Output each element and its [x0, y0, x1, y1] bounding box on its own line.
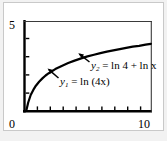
annotation-label-y2: y2 = ln 4 + ln x: [91, 60, 156, 71]
annotation-y2-equals: =: [99, 59, 111, 71]
figure-container: 5 0 10 y2 = ln 4 + ln x y1 = ln (4x): [0, 0, 167, 141]
annotation-y1-expression: ln (4x): [80, 75, 110, 87]
x-axis-min-label: 0: [9, 118, 15, 130]
annotation-y1-subscript: 1: [65, 81, 69, 89]
annotation-y2-expression: ln 4 + ln x: [111, 59, 156, 71]
annotation-y1-equals: =: [68, 75, 80, 87]
annotation-label-y1: y1 = ln (4x): [60, 76, 110, 87]
x-axis-max-label: 10: [138, 118, 150, 130]
y-axis-max-label: 5: [9, 19, 15, 31]
annotation-y2-subscript: 2: [96, 65, 100, 73]
